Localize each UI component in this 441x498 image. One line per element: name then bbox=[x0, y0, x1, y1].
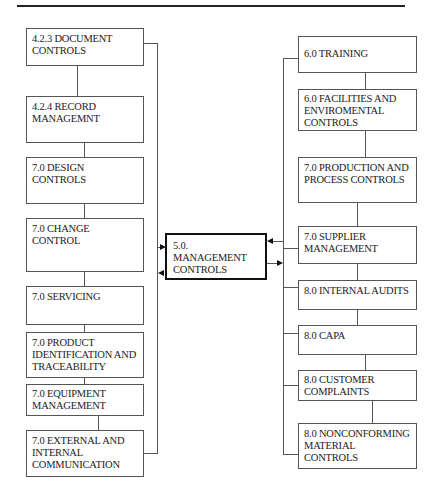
box-label: 7.0 EXTERNAL AND INTERNAL COMMUNICATION bbox=[32, 435, 124, 470]
left-bracket-bottom bbox=[144, 453, 158, 454]
connector bbox=[357, 203, 358, 226]
connector bbox=[372, 401, 373, 423]
connector bbox=[365, 355, 366, 370]
box-record-management: 4.2.4 RECORD MANAGEMNT bbox=[26, 96, 144, 143]
right-bracket-tick bbox=[283, 454, 298, 455]
box-label: 6.0 FACILITIES AND ENVIROMENTAL CONTROLS bbox=[304, 93, 396, 128]
connector bbox=[84, 378, 85, 384]
arrow-left-icon bbox=[267, 238, 273, 244]
connector bbox=[365, 131, 366, 157]
box-label: 7.0 EQUIPMENT MANAGEMENT bbox=[32, 388, 106, 411]
right-bracket-tick bbox=[283, 333, 298, 334]
box-label: 5.0. MANAGEMENT CONTROLS bbox=[173, 240, 247, 275]
box-servicing: 7.0 SERVICING bbox=[26, 286, 144, 325]
connector bbox=[98, 416, 99, 430]
box-design-controls: 7.0 DESIGN CONTROLS bbox=[26, 157, 144, 204]
box-label: 7.0 CHANGE CONTROL bbox=[32, 223, 90, 246]
box-label: 8.0 INTERNAL AUDITS bbox=[304, 285, 409, 296]
box-label: 7.0 SERVICING bbox=[32, 291, 100, 302]
connector bbox=[357, 264, 358, 280]
box-label: 7.0 DESIGN CONTROLS bbox=[32, 162, 86, 185]
box-label: 4.2.3 DOCUMENT CONTROLS bbox=[32, 33, 112, 56]
box-label: 7.0 PRODUCTION AND PROCESS CONTROLS bbox=[304, 162, 409, 185]
box-supplier-management: 7.0 SUPPLIER MANAGEMENT bbox=[298, 226, 417, 264]
right-arrow-in-line bbox=[272, 241, 283, 242]
box-label: 7.0 PRODUCT IDENTIFICATION AND TRACEABIL… bbox=[32, 337, 136, 372]
box-internal-audits: 8.0 INTERNAL AUDITS bbox=[298, 280, 417, 310]
box-label: 7.0 SUPPLIER MANAGEMENT bbox=[304, 231, 378, 254]
right-bracket-tick bbox=[283, 58, 298, 59]
box-facilities-environmental-controls: 6.0 FACILITIES AND ENVIROMENTAL CONTROLS bbox=[298, 89, 417, 131]
connector bbox=[77, 66, 78, 96]
connector bbox=[84, 272, 85, 286]
box-management-controls: 5.0. MANAGEMENT CONTROLS bbox=[165, 233, 267, 280]
box-training: 6.0 TRAINING bbox=[298, 36, 417, 73]
box-capa: 8.0 CAPA bbox=[298, 325, 417, 355]
box-label: 8.0 CUSTOMER COMPLAINTS bbox=[304, 374, 374, 397]
box-external-internal-communication: 7.0 EXTERNAL AND INTERNAL COMMUNICATION bbox=[26, 430, 144, 477]
right-bracket-tick bbox=[283, 385, 298, 386]
connector bbox=[84, 143, 85, 157]
box-label: 8.0 CAPA bbox=[304, 330, 345, 341]
connector bbox=[84, 325, 85, 332]
connector bbox=[365, 73, 366, 89]
top-rule bbox=[17, 5, 405, 7]
box-change-control: 7.0 CHANGE CONTROL bbox=[26, 218, 144, 272]
connector bbox=[357, 310, 358, 325]
left-bracket-vertical bbox=[157, 43, 158, 454]
box-nonconforming-material-controls: 8.0 NONCONFORMING MATERIAL CONTROLS bbox=[298, 423, 417, 469]
box-customer-complaints: 8.0 CUSTOMER COMPLAINTS bbox=[298, 370, 417, 401]
box-label: 6.0 TRAINING bbox=[304, 48, 368, 59]
box-production-process-controls: 7.0 PRODUCTION AND PROCESS CONTROLS bbox=[298, 157, 417, 203]
left-bracket-top bbox=[144, 43, 158, 44]
box-product-identification: 7.0 PRODUCT IDENTIFICATION AND TRACEABIL… bbox=[26, 332, 144, 378]
box-document-controls: 4.2.3 DOCUMENT CONTROLS bbox=[26, 28, 144, 66]
arrow-left-icon bbox=[158, 270, 164, 276]
right-bracket-tick bbox=[283, 287, 298, 288]
right-bracket-vertical bbox=[283, 58, 284, 455]
box-label: 4.2.4 RECORD MANAGEMNT bbox=[32, 101, 100, 124]
connector bbox=[84, 204, 85, 218]
arrow-right-icon bbox=[277, 260, 283, 266]
box-label: 8.0 NONCONFORMING MATERIAL CONTROLS bbox=[304, 428, 410, 463]
box-equipment-management: 7.0 EQUIPMENT MANAGEMENT bbox=[26, 384, 144, 416]
right-bracket-tick bbox=[283, 248, 298, 249]
